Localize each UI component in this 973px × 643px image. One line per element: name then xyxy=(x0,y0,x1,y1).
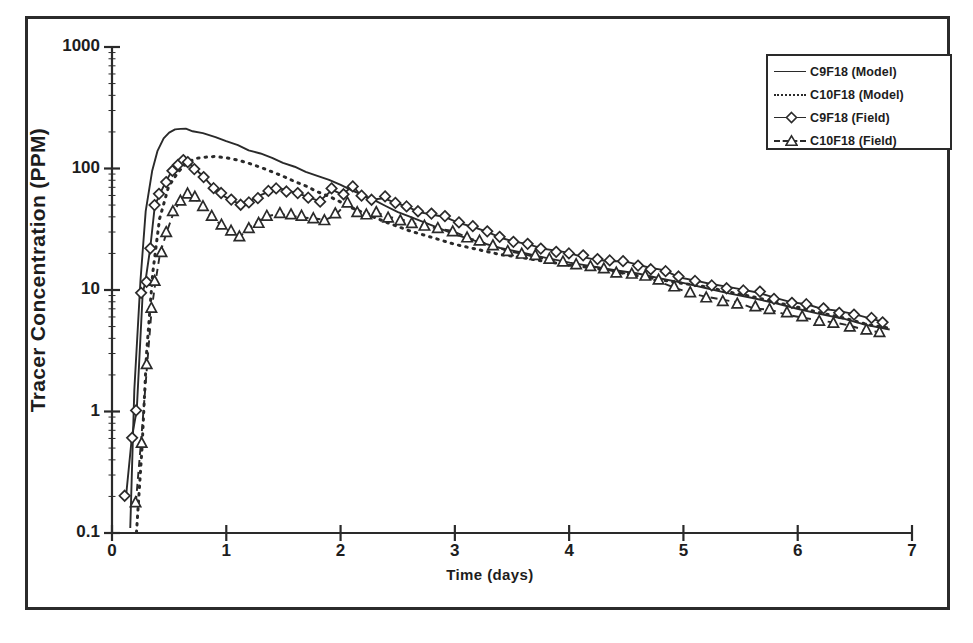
y-tick-label: 1 xyxy=(20,401,100,421)
x-tick-label: 6 xyxy=(778,541,818,561)
x-tick-label: 0 xyxy=(92,541,132,561)
legend-item: C9F18 (Model) xyxy=(772,60,950,83)
triangle-icon xyxy=(785,134,798,147)
legend-key-solid-line xyxy=(772,65,810,79)
y-axis-title: Tracer Concentration (PPM) xyxy=(26,10,50,530)
x-tick-label: 2 xyxy=(321,541,361,561)
x-tick-label: 7 xyxy=(892,541,932,561)
y-tick-label: 0.1 xyxy=(20,522,100,542)
x-tick-label: 3 xyxy=(435,541,475,561)
diamond-icon xyxy=(785,111,798,124)
legend-item: C10F18 (Model) xyxy=(772,83,950,106)
legend-key-dotted-line xyxy=(772,88,810,102)
x-axis-title: Time (days) xyxy=(330,566,650,583)
chart-figure: Tracer Concentration (PPM) Time (days) 1… xyxy=(0,0,973,643)
legend-label: C9F18 (Field) xyxy=(810,111,890,125)
legend-label: C10F18 (Field) xyxy=(810,134,897,148)
x-tick-label: 1 xyxy=(206,541,246,561)
legend: C9F18 (Model) C10F18 (Model) C9F18 (Fiel… xyxy=(766,54,952,150)
y-tick-label: 1000 xyxy=(20,36,100,56)
y-tick-label: 100 xyxy=(20,158,100,178)
y-tick-label: 10 xyxy=(20,279,100,299)
legend-item: C10F18 (Field) xyxy=(772,129,950,152)
x-tick-label: 4 xyxy=(549,541,589,561)
x-tick-label: 5 xyxy=(663,541,703,561)
legend-label: C9F18 (Model) xyxy=(810,65,897,79)
legend-label: C10F18 (Model) xyxy=(810,88,904,102)
legend-key-triangle-marker xyxy=(772,134,810,148)
legend-item: C9F18 (Field) xyxy=(772,106,950,129)
legend-key-diamond-marker xyxy=(772,111,810,125)
